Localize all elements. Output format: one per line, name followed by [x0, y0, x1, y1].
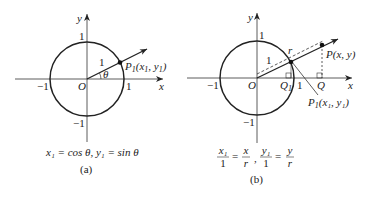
- origin-label: O: [248, 79, 256, 91]
- r-label: r: [288, 44, 293, 56]
- angle-arc: [100, 73, 102, 79]
- right-angle-q: [317, 73, 322, 78]
- point-p: [320, 43, 325, 48]
- angle-label: θ: [103, 68, 109, 80]
- caption-b: (b): [250, 173, 263, 186]
- x-axis-label: x: [347, 79, 353, 91]
- x-axis-label: x: [158, 80, 164, 92]
- p1-leader-line: [292, 62, 318, 95]
- y-axis-label: y: [247, 11, 253, 23]
- caption-a: (a): [80, 163, 93, 176]
- frac2-den: r: [244, 157, 249, 169]
- caption-equation-b: x₁ 1 = x r , y₁ 1 = y r: [217, 144, 294, 169]
- point-p1-label: P1(x₁, y₁): [307, 96, 349, 110]
- point-p-label: P(x, y): [325, 48, 356, 61]
- point-p1: [118, 60, 123, 65]
- unit-circle-figures: y x O 1 −1 1 −1 1 θ P1(x1, y1) x₁ = cos …: [0, 0, 368, 197]
- origin-label: O: [78, 80, 86, 92]
- y-axis-label: y: [76, 12, 82, 24]
- radius-label: 1: [266, 54, 272, 66]
- tick-pos-y: 1: [259, 29, 265, 41]
- frac3-den: 1: [263, 157, 269, 169]
- figure-b: y x O 1 −1 1 −1 1 r P(x, y) Q Q1 P1(x₁, …: [187, 11, 356, 186]
- frac1-num: x₁: [218, 144, 228, 156]
- tick-neg-y: −1: [243, 116, 255, 128]
- q1-label: Q1: [280, 79, 292, 93]
- frac4-num: y: [287, 144, 293, 156]
- right-angle-q1: [286, 73, 291, 78]
- tick-neg-x: −1: [37, 80, 49, 92]
- tick-neg-y: −1: [73, 117, 85, 129]
- frac2-num: x: [243, 144, 249, 156]
- caption-equation-a: x₁ = cos θ, y₁ = sin θ: [45, 146, 139, 158]
- figure-a: y x O 1 −1 1 −1 1 θ P1(x1, y1) x₁ = cos …: [15, 12, 167, 176]
- svg-text:=: =: [232, 150, 238, 162]
- tick-neg-x: −1: [207, 79, 219, 91]
- tick-pos-y: 1: [79, 30, 85, 42]
- point-p1: [289, 60, 294, 65]
- tick-pos-x: 1: [297, 79, 303, 91]
- svg-text:=: =: [275, 150, 281, 162]
- q-label: Q: [317, 79, 325, 91]
- svg-text:,: ,: [254, 152, 257, 164]
- frac4-den: r: [288, 157, 293, 169]
- point-p1-label: P1(x1, y1): [124, 60, 167, 74]
- tick-pos-x: 1: [126, 80, 132, 92]
- frac3-num: y₁: [261, 144, 271, 156]
- frac1-den: 1: [220, 157, 226, 169]
- radius-label: 1: [99, 56, 105, 68]
